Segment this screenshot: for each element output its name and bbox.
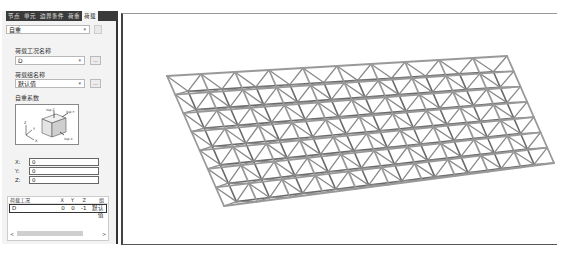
tab-elements[interactable]: 单元 — [22, 11, 38, 21]
load-case-browse-button[interactable]: ... — [90, 56, 101, 65]
horizontal-scrollbar[interactable]: < > — [8, 230, 108, 237]
space-truss-model[interactable] — [123, 14, 559, 246]
svg-text:Y: Y — [33, 127, 36, 131]
load-type-button[interactable] — [94, 25, 102, 34]
factor-x-input[interactable]: 0 — [29, 158, 99, 166]
chevron-down-icon: ▾ — [78, 80, 81, 87]
factor-z-label: Z: — [15, 177, 29, 183]
load-group-label: 荷载组名称 — [15, 70, 45, 79]
scroll-left-icon[interactable]: < — [8, 231, 16, 237]
header-group[interactable]: 组 — [86, 197, 106, 203]
scroll-thumb[interactable] — [17, 231, 83, 236]
chevron-down-icon: ▾ — [83, 26, 86, 33]
cell-group: 默认值 — [86, 205, 106, 212]
header-z[interactable]: Z — [74, 197, 86, 203]
model-viewport[interactable] — [121, 13, 557, 245]
tab-bar: 节点 单元 边界条件 荷重 荷载 — [6, 11, 118, 21]
tab-nodes[interactable]: 节点 — [6, 11, 22, 21]
factor-y-input[interactable]: 0 — [29, 167, 99, 175]
factor-z-row: Z: 0 — [15, 176, 99, 184]
load-case-label: 荷载工况名称 — [15, 46, 51, 55]
vsp-x-label: Vsp.X — [64, 137, 73, 141]
cell-y: 0 — [65, 205, 75, 212]
factor-y-row: Y: 0 — [15, 167, 99, 175]
tab-boundary[interactable]: 边界条件 — [38, 11, 66, 21]
load-group-browse-button[interactable]: ... — [90, 79, 101, 88]
tab-loads[interactable]: 荷载 — [82, 11, 98, 21]
header-x[interactable]: X — [54, 197, 64, 203]
load-group-select[interactable]: 默认值 ▾ — [15, 79, 85, 88]
tab-mass[interactable]: 荷重 — [66, 11, 82, 21]
header-y[interactable]: Y — [64, 197, 74, 203]
cell-x: 0 — [55, 205, 65, 212]
scroll-right-icon[interactable]: > — [100, 231, 108, 237]
svg-text:Z: Z — [24, 121, 27, 125]
load-type-select[interactable]: 自重 ▾ — [6, 25, 90, 34]
load-type-row: 自重 ▾ — [6, 25, 102, 34]
table-header: 荷载工况 X Y Z 组 — [8, 197, 108, 204]
vsp-y-label: Vsp.Y — [66, 110, 74, 114]
vsp-z-label: Vsp.Z — [46, 108, 55, 112]
cell-z: -1 — [75, 205, 87, 212]
load-case-row: D ▾ ... — [15, 56, 101, 65]
self-weight-diagram: Vsp.Z Vsp.Y Vsp.X Z Y X — [15, 104, 79, 145]
cell-load-case: D — [10, 205, 55, 212]
load-group-value: 默认值 — [18, 80, 36, 87]
self-weight-factor-label: 自重系数 — [15, 93, 39, 102]
load-group-row: 默认值 ▾ ... — [15, 79, 101, 88]
svg-text:X: X — [35, 139, 38, 143]
load-table: 荷载工况 X Y Z 组 D 0 0 -1 默认值 < > — [7, 196, 109, 241]
factor-x-row: X: 0 — [15, 158, 99, 166]
load-case-select[interactable]: D ▾ — [15, 56, 85, 65]
load-type-value: 自重 — [9, 26, 21, 33]
factor-y-label: Y: — [15, 168, 29, 174]
cube-axes-icon: Vsp.Z Vsp.Y Vsp.X Z Y X — [16, 105, 80, 146]
header-load-case[interactable]: 荷载工况 — [8, 197, 54, 203]
chevron-down-icon: ▾ — [78, 57, 81, 64]
table-row[interactable]: D 0 0 -1 默认值 — [9, 204, 107, 213]
scroll-track[interactable] — [16, 231, 100, 236]
factor-z-input[interactable]: 0 — [29, 176, 99, 184]
factor-x-label: X: — [15, 159, 29, 165]
load-case-value: D — [18, 57, 23, 64]
